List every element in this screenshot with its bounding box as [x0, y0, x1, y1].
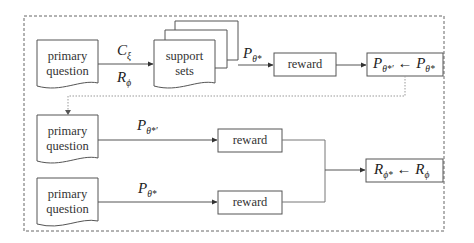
reward-label-2: reward: [218, 133, 282, 148]
primary-question-label-1: primary question: [37, 49, 98, 79]
policy-update-formula: Pθ*′ ← Pθ*: [373, 55, 435, 74]
reward-label-1: reward: [274, 57, 336, 72]
edge-label-c-xi: Cξ: [117, 42, 131, 61]
support-sets-label: support sets: [154, 49, 215, 79]
edge-label-r-phi: Rϕ: [117, 69, 131, 88]
primary-question-label-2: primary question: [37, 124, 98, 154]
reward-update-formula: Rϕ* ← Rϕ: [374, 161, 429, 180]
edge-label-p-theta-star-bottom: Pθ*: [138, 180, 157, 199]
edge-merge-rewards: [282, 140, 325, 202]
edge-label-p-theta-star-top: Pθ*: [243, 45, 262, 64]
primary-question-label-3: primary question: [37, 187, 98, 217]
edge-label-p-theta-star-prime: Pθ*′: [137, 117, 158, 136]
reward-label-3: reward: [218, 195, 282, 210]
